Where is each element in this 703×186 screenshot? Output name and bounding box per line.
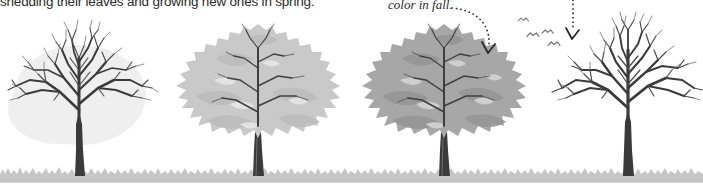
seasonal-tree-scene	[0, 0, 703, 186]
tree-1-bare-spring	[8, 20, 158, 176]
flying-birds	[518, 18, 560, 45]
figure-canvas: shedding their leaves and growing new on…	[0, 0, 703, 186]
tree-2-summer-canopy	[176, 24, 340, 176]
leader-line-to-winter-tree	[566, 0, 579, 39]
tree-3-fall-canopy	[362, 24, 526, 176]
grass-strip	[0, 167, 703, 183]
canopy-dark	[362, 24, 526, 138]
canopy-light	[176, 24, 340, 138]
